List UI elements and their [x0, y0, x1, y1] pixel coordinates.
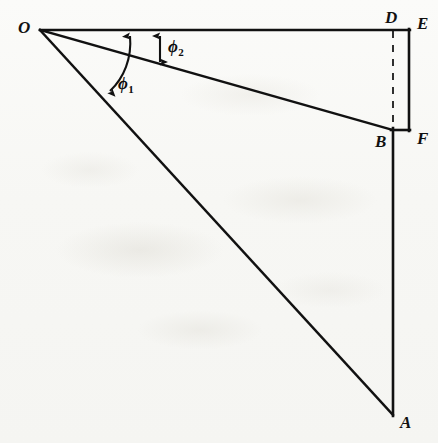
angle-label-phi2-subscript: 2	[178, 46, 184, 58]
angle-label-phi1-subscript: 1	[128, 83, 134, 95]
vertex-label-O: O	[18, 19, 30, 36]
angle-label-phi2: ϕ2	[168, 38, 184, 58]
geometry-diagram-svg	[0, 0, 438, 443]
vertex-label-E: E	[417, 15, 428, 32]
vertex-label-A: A	[400, 414, 411, 431]
figure-canvas: O D E B F A ϕ1 ϕ2	[0, 0, 438, 443]
segment-OA	[40, 30, 393, 415]
vertex-label-B: B	[375, 133, 386, 150]
angle-label-phi1-symbol: ϕ	[118, 74, 128, 93]
angle-label-phi2-symbol: ϕ	[168, 37, 178, 56]
segment-OB	[40, 30, 393, 130]
angle-label-phi1: ϕ1	[118, 75, 134, 95]
vertex-label-D: D	[385, 9, 397, 26]
vertex-label-F: F	[417, 130, 428, 147]
